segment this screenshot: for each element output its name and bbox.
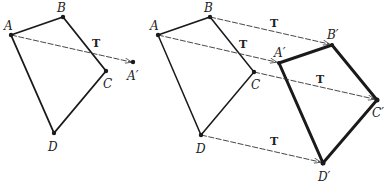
point-b-prime [330, 43, 334, 47]
point-a-prime [131, 60, 135, 64]
point-a [156, 33, 160, 37]
label-c-prime: C′ [372, 106, 384, 120]
label-a-prime: A′ [126, 69, 139, 83]
label-d-prime: D′ [317, 170, 331, 184]
point-d-prime [321, 161, 326, 166]
point-c [104, 69, 108, 73]
label-a: A [3, 19, 13, 33]
label-translation: T [92, 37, 101, 50]
quadrilateral-abcd [158, 17, 254, 135]
point-a-prime [277, 61, 281, 65]
translation-vector-a [158, 35, 276, 62]
quadrilateral-abcd [11, 17, 106, 133]
point-d [199, 133, 203, 137]
label-translation-c: T [316, 73, 325, 86]
label-d: D [195, 142, 206, 156]
label-a: A [149, 19, 159, 33]
left-figure: A B C D A′ T [3, 1, 139, 154]
point-d [52, 131, 56, 135]
label-b-prime: B′ [326, 28, 339, 42]
label-d: D [47, 140, 58, 154]
label-translation-b: T [270, 17, 279, 30]
label-translation-a: T [239, 38, 248, 51]
point-b [208, 15, 212, 19]
label-c: C [251, 78, 260, 92]
label-b: B [56, 1, 66, 15]
label-b: B [203, 1, 213, 15]
point-a [9, 33, 13, 37]
quadrilateral-abcd-prime [279, 45, 377, 163]
point-b [61, 15, 65, 19]
point-c-prime [375, 98, 380, 103]
point-c [252, 70, 256, 74]
translation-vector-d [201, 135, 320, 162]
right-figure: A B C D A′ B′ C′ D′ T T T T [149, 1, 384, 184]
translation-vector-a [11, 35, 131, 62]
label-translation-d: T [270, 135, 279, 148]
translation-diagram: A B C D A′ T A B C D A′ B′ C′ D′ T T T T [0, 0, 387, 185]
label-a-prime: A′ [273, 46, 286, 60]
label-c: C [103, 77, 112, 91]
